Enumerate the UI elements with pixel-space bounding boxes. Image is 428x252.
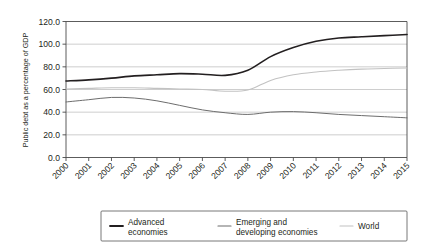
legend-label: World [358, 222, 380, 231]
legend-label: economies [128, 228, 168, 237]
x-tick-label: 2015 [391, 160, 412, 181]
legend-label: developing economies [236, 228, 317, 237]
data-series [66, 35, 407, 118]
y-axis-tick-labels: 0.020.040.060.080.0100.0120.0 [38, 17, 60, 163]
x-tick-label: 2013 [346, 160, 367, 181]
y-tick-label: 20.0 [43, 130, 60, 140]
y-tick-marks [63, 22, 67, 158]
gridlines [66, 44, 407, 135]
y-tick-label: 60.0 [43, 85, 60, 95]
chart-legend: AdvancedeconomiesEmerging anddeveloping … [101, 211, 407, 241]
x-tick-label: 2011 [301, 160, 321, 180]
x-tick-label: 2007 [209, 160, 230, 181]
y-tick-label: 100.0 [38, 39, 60, 49]
x-tick-label: 2014 [368, 160, 389, 181]
x-tick-label: 2009 [255, 160, 276, 181]
x-axis-tick-labels: 2000200120022003200420052006200720082009… [50, 160, 412, 181]
chart-canvas: 0.020.040.060.080.0100.0120.0 2000200120… [0, 0, 428, 252]
series-line-advanced-economies [66, 35, 407, 81]
x-tick-label: 2010 [277, 160, 298, 181]
x-tick-label: 2001 [73, 160, 94, 181]
legend-label: Advanced [128, 218, 165, 227]
x-tick-label: 2003 [118, 160, 139, 181]
x-tick-label: 2005 [164, 160, 185, 181]
x-tick-label: 2012 [323, 160, 344, 181]
x-tick-label: 2004 [141, 160, 162, 181]
y-tick-label: 80.0 [43, 62, 60, 72]
legend-label: Emerging and [236, 218, 287, 227]
x-tick-marks [66, 158, 407, 162]
x-tick-label: 2002 [95, 160, 116, 181]
series-line-emerging-and-developing-economies [66, 97, 407, 118]
y-tick-label: 0.0 [48, 153, 60, 163]
public-debt-line-chart: 0.020.040.060.080.0100.0120.0 2000200120… [0, 0, 428, 252]
y-axis-title: Public debt as a percentage of GDP [21, 32, 30, 147]
x-tick-label: 2006 [186, 160, 207, 181]
y-tick-label: 40.0 [43, 107, 60, 117]
x-tick-label: 2008 [232, 160, 253, 181]
x-tick-label: 2000 [50, 160, 71, 181]
y-tick-label: 120.0 [38, 17, 60, 27]
series-line-world [66, 68, 407, 91]
